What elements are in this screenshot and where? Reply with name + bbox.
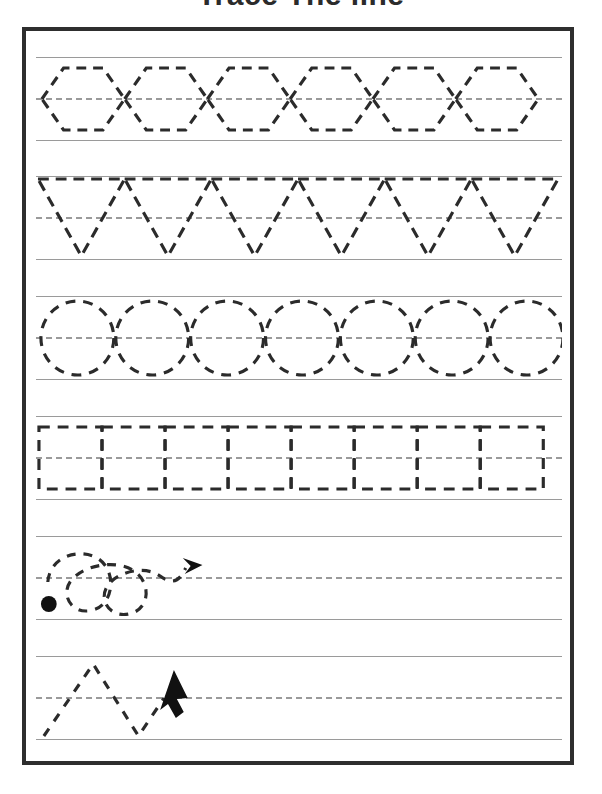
practice-row-oval[interactable] [26, 296, 570, 380]
trace-shapes-loop [36, 536, 562, 620]
trace-shapes-zigzag [36, 656, 562, 740]
practice-row-loop[interactable] [26, 536, 570, 620]
practice-row-hexagon[interactable] [26, 57, 570, 141]
trace-shapes-hexagon [36, 57, 562, 141]
trace-shapes-rectangle [36, 416, 562, 500]
practice-row-zigzag[interactable] [26, 656, 570, 740]
arrow-cursor-up-right-icon [160, 670, 188, 718]
practice-row-triangle-down[interactable] [26, 176, 570, 260]
trace-shapes-triangle [36, 176, 562, 260]
page-title: Trace The line [0, 0, 602, 12]
start-dot-marker [41, 596, 57, 612]
trace-shapes-oval [36, 296, 562, 380]
practice-row-rectangle[interactable] [26, 416, 570, 500]
worksheet-page-frame [22, 27, 574, 765]
arrowhead-right-icon [183, 558, 203, 574]
